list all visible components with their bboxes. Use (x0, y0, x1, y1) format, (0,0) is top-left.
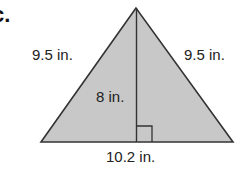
height-label: 8 in. (96, 88, 124, 105)
base-label: 10.2 in. (106, 148, 155, 165)
left-side-label: 9.5 in. (32, 46, 73, 63)
right-side-label: 9.5 in. (184, 46, 225, 63)
figure-root: c. 9.5 in. 9.5 in. 8 in. 10.2 in. (0, 0, 237, 172)
triangle-diagram (0, 0, 237, 172)
